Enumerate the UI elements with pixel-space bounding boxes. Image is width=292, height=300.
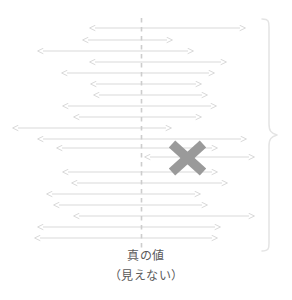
caption-true-value: 真の値 — [0, 246, 292, 263]
caption-not-visible: （見えない） — [0, 266, 292, 283]
confidence-interval-figure: 真の値 （見えない） — [0, 0, 292, 300]
interval-arrows-group — [18, 28, 249, 238]
right-curly-brace — [262, 19, 277, 251]
